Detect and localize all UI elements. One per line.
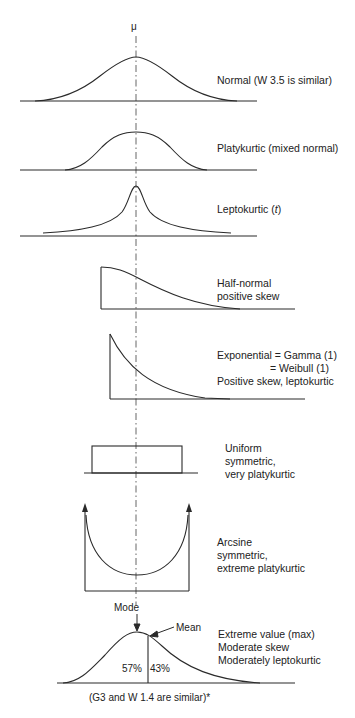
- label-extreme-value: Extreme value (max) Moderate skew Modera…: [218, 628, 321, 667]
- label-arcsine: Arcsine symmetric, extreme platykurtic: [217, 536, 305, 575]
- label-leptokurtic: Leptokurtic (t): [217, 203, 281, 216]
- left-percentage: 57%: [122, 663, 142, 675]
- mode-label: Mode: [114, 602, 139, 614]
- label-platykurtic: Platykurtic (mixed normal): [217, 142, 338, 155]
- arcsine-curve: [85, 510, 189, 591]
- uniform-shape: [84, 446, 198, 473]
- mode-arrow: [134, 614, 140, 631]
- label-uniform: Uniform symmetric, very platykurtic: [225, 442, 295, 481]
- mu-axis-label: μ: [131, 20, 137, 33]
- label-half-normal: Half-normal positive skew: [217, 277, 279, 303]
- footnote: (G3 and W 1.4 are similar)*: [89, 692, 210, 704]
- mean-arrow: [150, 627, 174, 637]
- label-normal: Normal (W 3.5 is similar): [217, 74, 332, 87]
- right-percentage: 43%: [150, 663, 170, 675]
- arcsine-arrowheads: [82, 503, 192, 512]
- label-exponential: Exponential = Gamma (1) = Weibull (1) Po…: [217, 349, 337, 388]
- mean-label: Mean: [176, 622, 201, 634]
